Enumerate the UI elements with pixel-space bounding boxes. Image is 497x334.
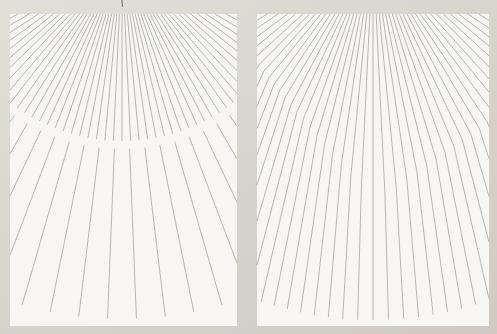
scanned-figure-page (0, 0, 497, 334)
vanishing-point-tick (122, 0, 123, 7)
two-panel-line-figure (0, 0, 497, 334)
edge-panel-background (10, 14, 237, 326)
